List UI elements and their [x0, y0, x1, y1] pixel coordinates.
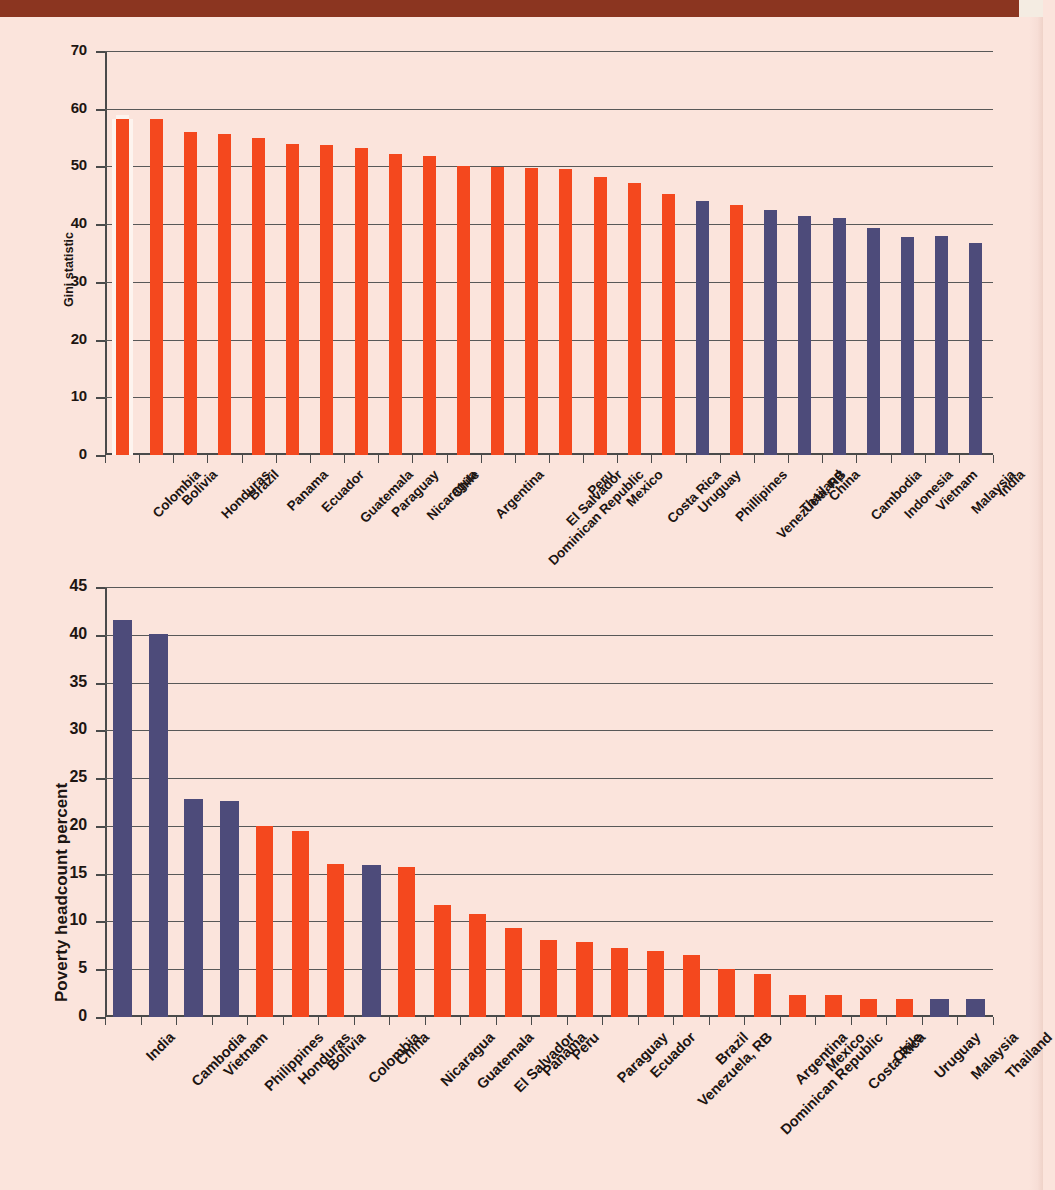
bar	[966, 999, 985, 1017]
x-axis-tick-mark	[815, 1017, 816, 1025]
bar	[389, 154, 402, 455]
bar	[696, 201, 709, 455]
x-axis-tick-mark	[567, 1017, 568, 1025]
bar-slot	[815, 587, 851, 1017]
bar	[754, 974, 771, 1017]
bar-slot	[709, 587, 745, 1017]
bar-slot	[389, 587, 425, 1017]
x-axis-tick-mark	[822, 455, 823, 463]
bar	[256, 826, 273, 1017]
y-axis-tick-mark	[96, 874, 105, 876]
y-axis-tick-label: 25	[35, 768, 87, 786]
bar-slot	[754, 51, 788, 455]
bar-slot	[924, 51, 958, 455]
bar-slot	[549, 51, 583, 455]
bar	[718, 969, 735, 1017]
x-axis-tick-mark	[856, 455, 857, 463]
bar	[798, 216, 811, 456]
x-axis-tick-mark	[651, 455, 652, 463]
bar	[559, 169, 572, 455]
x-axis-tick-mark	[549, 455, 550, 463]
bar	[286, 144, 299, 455]
y-axis-tick-label: 20	[35, 816, 87, 834]
x-axis-tick-mark	[276, 455, 277, 463]
x-axis-tick-mark	[389, 1017, 390, 1025]
bar-slot	[617, 51, 651, 455]
x-axis-tick-mark	[709, 1017, 710, 1025]
bar-slot	[344, 51, 378, 455]
bar-slot	[890, 51, 924, 455]
bar-slot	[283, 587, 319, 1017]
y-axis-tick-mark	[96, 683, 105, 685]
y-axis-tick-mark	[96, 826, 105, 828]
bar	[525, 168, 538, 455]
x-axis-tick-mark	[378, 455, 379, 463]
bar	[930, 999, 949, 1017]
bar-slot	[460, 587, 496, 1017]
bar-slot	[851, 587, 887, 1017]
y-axis-tick-mark	[96, 340, 105, 342]
x-axis-tick-mark	[754, 455, 755, 463]
bar-slot	[685, 51, 719, 455]
bar	[901, 237, 914, 455]
bar	[252, 138, 265, 455]
x-axis-tick-mark	[310, 455, 311, 463]
bar-slot	[378, 51, 412, 455]
y-axis-tick-mark	[96, 587, 105, 589]
header-band-margin	[1019, 0, 1043, 17]
y-axis-tick-mark	[96, 635, 105, 637]
x-axis-tick-label: India	[143, 1029, 178, 1064]
y-axis-tick-label: 60	[35, 99, 87, 116]
y-axis-tick-label: 70	[35, 41, 87, 58]
y-axis-tick-mark	[96, 455, 105, 457]
bar	[116, 119, 129, 455]
x-axis-tick-mark	[993, 455, 994, 463]
y-axis-tick-mark	[96, 166, 105, 168]
bar-slot	[515, 51, 549, 455]
bar	[292, 831, 309, 1017]
x-axis-tick-mark	[583, 455, 584, 463]
bar	[867, 228, 880, 455]
bar-slot	[139, 51, 173, 455]
bar-slot	[788, 51, 822, 455]
bar	[505, 928, 522, 1017]
x-axis-tick-mark	[460, 1017, 461, 1025]
x-axis-tick-mark	[957, 1017, 958, 1025]
x-axis-tick-mark	[959, 455, 960, 463]
bar-slot	[212, 587, 248, 1017]
x-axis-tick-mark	[176, 1017, 177, 1025]
bar	[491, 167, 504, 455]
bar	[355, 148, 368, 455]
bar-slot	[959, 51, 993, 455]
bar	[825, 995, 842, 1017]
x-axis-tick-mark	[412, 455, 413, 463]
bar-slot	[780, 587, 816, 1017]
bar	[764, 210, 777, 455]
bar-slot	[651, 51, 685, 455]
gini-y-axis-title: Gini statistic	[62, 232, 76, 307]
bar	[218, 134, 231, 455]
bar-slot	[638, 587, 674, 1017]
bar	[320, 145, 333, 455]
x-axis-tick-mark	[496, 1017, 497, 1025]
y-axis-tick-mark	[96, 921, 105, 923]
bar-slot	[242, 51, 276, 455]
y-axis-tick-mark	[96, 282, 105, 284]
bar	[184, 799, 203, 1017]
bar	[730, 205, 743, 455]
x-axis-tick-mark	[780, 1017, 781, 1025]
bar-slot	[602, 587, 638, 1017]
bar	[628, 183, 641, 455]
x-axis-tick-mark	[344, 455, 345, 463]
x-axis-tick-mark	[638, 1017, 639, 1025]
bar	[833, 218, 846, 455]
bar-slot	[207, 51, 241, 455]
bar-series	[105, 587, 993, 1017]
bar-slot	[141, 587, 177, 1017]
x-axis-tick-mark	[283, 1017, 284, 1025]
bar	[434, 905, 451, 1017]
x-axis-tick-mark	[242, 455, 243, 463]
bar	[662, 194, 675, 455]
x-axis-tick-mark	[173, 455, 174, 463]
bar-slot	[822, 51, 856, 455]
